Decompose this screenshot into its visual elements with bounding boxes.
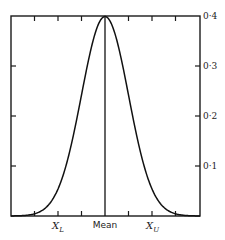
- normal-distribution-chart: 0·10·20·30·4 XLMeanXU: [0, 0, 225, 240]
- x-tick-label: Mean: [93, 220, 118, 230]
- x-tick-label: XU: [145, 220, 160, 234]
- x-tick-label: XL: [51, 220, 64, 234]
- x-axis-labels: XLMeanXU: [51, 220, 160, 234]
- y-tick-label: 0·3: [203, 61, 218, 71]
- y-tick-label: 0·4: [203, 11, 218, 21]
- y-tick-label: 0·2: [203, 111, 217, 121]
- y-axis-labels: 0·10·20·30·4: [203, 11, 218, 171]
- y-tick-label: 0·1: [203, 161, 217, 171]
